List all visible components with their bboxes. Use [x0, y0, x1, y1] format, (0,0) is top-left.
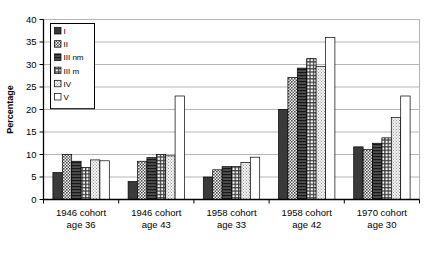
legend-label: IV: [64, 80, 72, 89]
bar[interactable]: [354, 147, 363, 200]
bar-chart: 0510152025303540 1946 cohortage 361946 c…: [0, 0, 434, 254]
bar[interactable]: [373, 143, 382, 199]
bar[interactable]: [241, 163, 250, 200]
legend-label: I: [64, 27, 66, 36]
bar[interactable]: [307, 59, 316, 200]
chart-canvas: 0510152025303540 1946 cohortage 361946 c…: [0, 0, 434, 254]
legend-swatch: [55, 41, 62, 48]
category-label-line: age 43: [142, 219, 171, 230]
category-label-line: age 33: [217, 219, 246, 230]
category-label-line: age 42: [292, 219, 321, 230]
y-axis-title-text: Percentage: [5, 85, 15, 134]
legend-swatch: [55, 28, 62, 35]
category-label-line: age 30: [367, 219, 396, 230]
bar[interactable]: [326, 38, 335, 200]
y-tick-label: 0: [31, 194, 36, 205]
y-tick-label: 15: [26, 126, 37, 137]
bar[interactable]: [279, 110, 288, 200]
legend-swatch: [55, 67, 62, 74]
category-label-line: 1970 cohort: [357, 207, 408, 218]
bar[interactable]: [297, 68, 306, 199]
legend-swatch: [55, 94, 62, 101]
category-label-line: 1958 cohort: [282, 207, 333, 218]
bar[interactable]: [363, 150, 372, 200]
y-tick-label: 10: [26, 149, 37, 160]
y-tick-label: 20: [26, 104, 37, 115]
legend-label: II: [64, 40, 68, 49]
bar[interactable]: [62, 155, 71, 200]
bar[interactable]: [203, 177, 212, 200]
bar[interactable]: [166, 156, 175, 200]
legend-label: V: [64, 93, 70, 102]
bar[interactable]: [232, 167, 241, 200]
category-label-line: 1946 cohort: [131, 207, 182, 218]
bar[interactable]: [138, 161, 147, 199]
legend-swatch: [55, 80, 62, 87]
y-tick-label: 25: [26, 81, 37, 92]
bar[interactable]: [81, 168, 90, 200]
bar[interactable]: [147, 158, 156, 200]
y-tick-label: 30: [26, 59, 37, 70]
legend-swatch: [55, 54, 62, 61]
y-tick-label: 5: [31, 171, 36, 182]
bar[interactable]: [222, 167, 231, 200]
bar[interactable]: [91, 160, 100, 200]
legend-label: III nm: [64, 53, 84, 62]
bar[interactable]: [100, 161, 109, 200]
y-tick-label: 35: [26, 36, 37, 47]
bar[interactable]: [175, 96, 184, 200]
bar[interactable]: [156, 155, 165, 200]
bar[interactable]: [316, 66, 325, 199]
bar[interactable]: [53, 173, 62, 200]
bar[interactable]: [250, 157, 259, 199]
bar[interactable]: [401, 96, 410, 200]
bar[interactable]: [382, 138, 391, 200]
chart-legend: IIIIII nmIII mIVV: [51, 24, 95, 109]
category-label-line: 1958 cohort: [206, 207, 257, 218]
bar[interactable]: [213, 170, 222, 200]
bar[interactable]: [391, 118, 400, 200]
category-label-line: age 36: [67, 219, 96, 230]
legend-label: III m: [64, 67, 80, 76]
category-label-line: 1946 cohort: [56, 207, 107, 218]
y-tick-label: 40: [26, 14, 37, 25]
bar[interactable]: [128, 182, 137, 200]
bar[interactable]: [72, 161, 81, 199]
bar[interactable]: [288, 78, 297, 200]
y-axis-title: Percentage: [5, 85, 15, 134]
